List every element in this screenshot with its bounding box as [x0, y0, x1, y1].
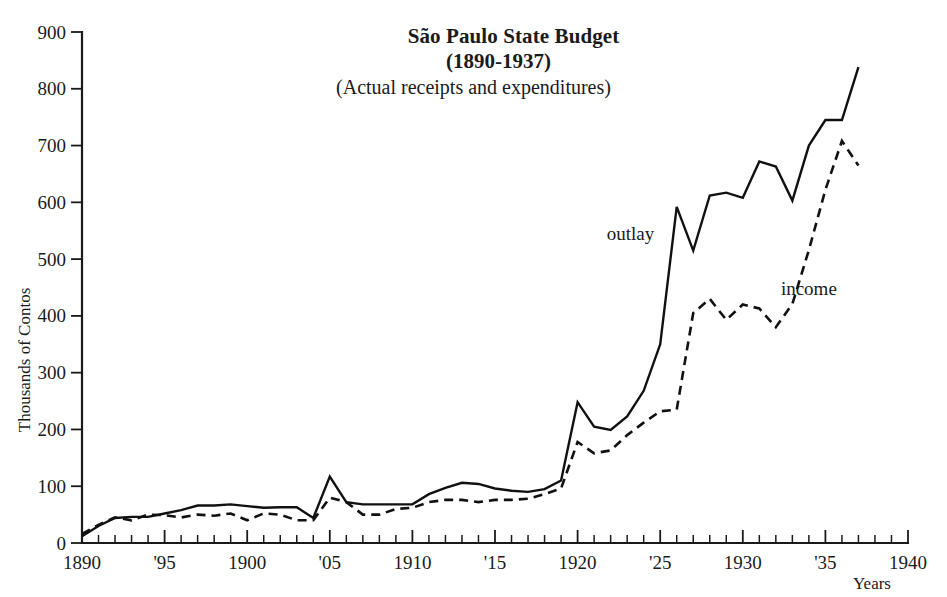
y-tick-label-900: 900 — [38, 22, 67, 43]
series-label-outlay: outlay — [607, 223, 655, 244]
x-axis-title: Years — [853, 574, 891, 593]
x-tick-label-1930: 1930 — [724, 552, 762, 573]
x-tick-label-1900: 1900 — [228, 552, 266, 573]
x-tick-label-1895: '95 — [153, 552, 175, 573]
chart-page: São Paulo State Budget (1890-1937) (Actu… — [0, 0, 947, 597]
y-tick-label-0: 0 — [57, 533, 67, 554]
y-tick-label-800: 800 — [38, 78, 67, 99]
y-tick-label-700: 700 — [38, 135, 67, 156]
y-axis-ticks — [71, 32, 82, 543]
y-tick-label-500: 500 — [38, 249, 67, 270]
y-axis-tick-labels: 0100200300400500600700800900 — [38, 22, 67, 554]
y-tick-label-100: 100 — [38, 476, 67, 497]
x-tick-label-1940: 1940 — [889, 552, 927, 573]
y-tick-label-200: 200 — [38, 419, 67, 440]
x-tick-label-1915: '15 — [484, 552, 506, 573]
x-tick-label-1920: 1920 — [559, 552, 597, 573]
x-tick-label-1890: 1890 — [63, 552, 101, 573]
x-axis-tick-labels: 1890'951900'051910'151920'251930'351940 — [63, 552, 927, 573]
data-series — [82, 67, 858, 536]
y-axis-title: Thousands of Contos — [15, 288, 34, 433]
y-tick-label-600: 600 — [38, 192, 67, 213]
series-line-outlay — [82, 67, 858, 536]
x-tick-label-1910: 1910 — [393, 552, 431, 573]
x-tick-label-1905: '05 — [319, 552, 341, 573]
x-tick-label-1935: '35 — [814, 552, 836, 573]
y-tick-label-300: 300 — [38, 362, 67, 383]
series-label-income: income — [781, 278, 837, 299]
x-tick-label-1925: '25 — [649, 552, 671, 573]
series-line-income — [82, 141, 858, 534]
y-tick-label-400: 400 — [38, 305, 67, 326]
x-axis-ticks — [82, 530, 908, 543]
line-chart: 0100200300400500600700800900 1890'951900… — [0, 0, 947, 597]
